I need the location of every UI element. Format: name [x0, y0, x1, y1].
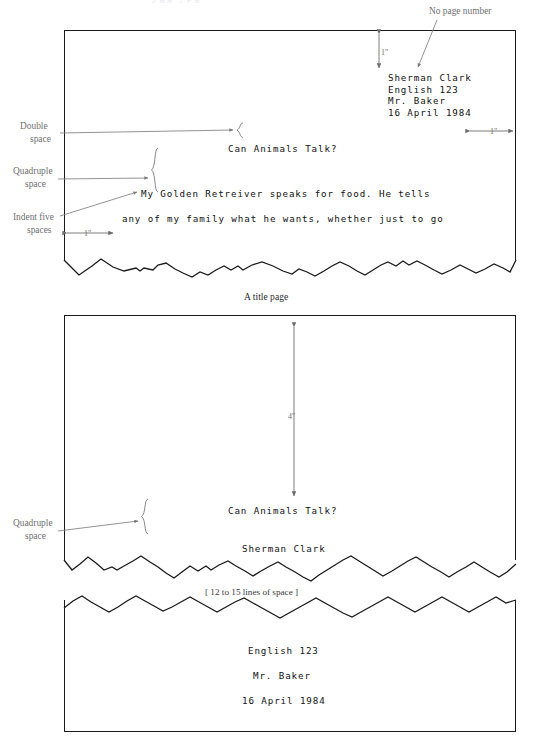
torn-edge-figure2-upper: [64, 556, 516, 581]
annotation-vector-overlay: [0, 0, 535, 754]
torn-edge-figure1: [64, 259, 516, 277]
torn-edge-figure2-lower: [64, 596, 516, 618]
figure-sheet-root: y g g y p g Sherman Clark English 123 Mr…: [0, 0, 535, 754]
leader-quadruple-space-fig2: [58, 499, 148, 534]
leader-double-space: [60, 123, 243, 137]
leader-no-page-number: [418, 20, 437, 67]
leader-quadruple-space-fig1: [58, 148, 158, 192]
leader-indent-five-spaces: [60, 192, 137, 216]
